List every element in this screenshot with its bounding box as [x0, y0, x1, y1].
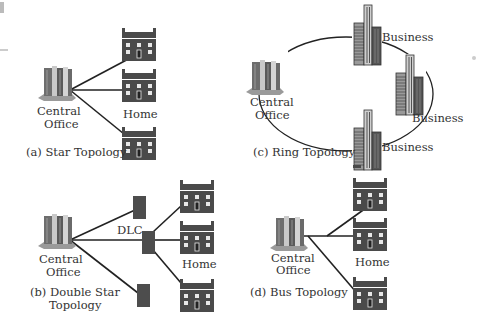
central-office-icon [270, 216, 308, 251]
central-office-label: Office [276, 263, 311, 277]
caption-ring-topology: (c) Ring Topology [253, 145, 356, 159]
central-office-label: Central [250, 95, 294, 109]
home-label: Home [355, 255, 390, 269]
central-office-label: Office [46, 265, 81, 279]
home-icon [353, 218, 387, 251]
caption-double-star-topology: (b) Double Star [30, 285, 120, 299]
business-label: Business [412, 111, 464, 125]
home-label: Home [182, 257, 217, 271]
panel-bus-topology: Home Central Office (d) Bus Topology [250, 165, 390, 310]
panel-star-topology: Central Office Home (a) Star Topology [26, 28, 158, 160]
caption-bus-topology: (d) Bus Topology [250, 285, 348, 299]
caption-double-star-topology: Topology [49, 298, 102, 312]
home-label: Home [123, 107, 158, 121]
dlc-node [137, 284, 150, 307]
central-office-icon [38, 214, 76, 249]
home-icon [353, 178, 387, 211]
business-label: Business [382, 30, 434, 44]
home-icon [122, 127, 156, 160]
dlc-node [133, 196, 146, 219]
central-office-label: Central [39, 252, 83, 266]
home-icon [180, 221, 214, 254]
caption-star-topology: (a) Star Topology [26, 145, 127, 159]
home-icon [180, 279, 214, 312]
cropped-home-icon [353, 165, 361, 168]
home-icon [180, 180, 214, 213]
central-office-label: Office [44, 117, 79, 131]
dlc-hub [142, 231, 155, 254]
central-office-label: Office [255, 108, 290, 122]
home-icon [122, 28, 156, 61]
business-label: Business [382, 140, 434, 154]
home-icon [353, 277, 387, 310]
scan-artifact-dot [472, 56, 476, 60]
double-star-links [70, 206, 181, 293]
home-icon [122, 69, 156, 102]
panel-double-star-topology: DLC Home Central Office (b) Double Star … [30, 180, 217, 312]
network-topology-diagram: Central Office Home (a) Star Topology Bu… [0, 0, 479, 325]
dlc-label: DLC [117, 223, 143, 237]
central-office-icon [38, 66, 76, 101]
panel-ring-topology: Business Business Business Central Offic… [240, 4, 464, 170]
central-office-label: Central [37, 104, 81, 118]
scan-artifact [0, 2, 4, 13]
